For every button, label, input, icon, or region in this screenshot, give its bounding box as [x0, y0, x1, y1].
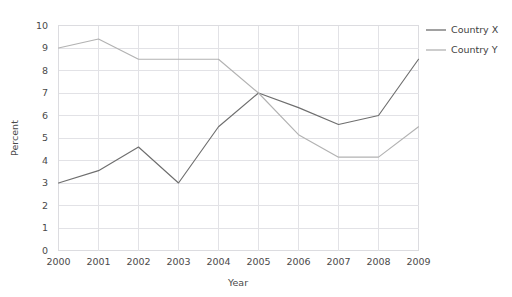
x-axis-tick-label: 2000 — [46, 256, 70, 267]
y-axis-tick-label: 3 — [42, 177, 48, 188]
y-axis-tick-label: 2 — [42, 200, 48, 211]
legend-item-label[interactable]: Country Y — [451, 44, 498, 55]
x-axis-tick-labels: 2000200120022003200420052006200720082009 — [46, 256, 430, 267]
legend-item-label[interactable]: Country X — [451, 24, 499, 35]
y-axis-tick-label: 8 — [42, 65, 48, 76]
legend: Country XCountry Y — [426, 24, 499, 55]
y-axis-tick-label: 5 — [42, 132, 48, 143]
x-axis-tick-label: 2001 — [86, 256, 110, 267]
x-axis-tick-label: 2002 — [126, 256, 150, 267]
y-axis-tick-label: 9 — [42, 42, 48, 53]
x-axis-tick-label: 2005 — [246, 256, 270, 267]
y-axis-tick-label: 7 — [42, 87, 48, 98]
x-axis-title: Year — [227, 277, 248, 288]
y-axis-tick-label: 1 — [42, 222, 48, 233]
y-axis-tick-label: 0 — [42, 245, 48, 256]
x-axis-tick-label: 2007 — [326, 256, 350, 267]
chart-canvas: 012345678910 200020012002200320042005200… — [0, 0, 512, 297]
line-chart: 012345678910 200020012002200320042005200… — [0, 0, 512, 297]
y-axis-title: Percent — [9, 120, 20, 156]
x-axis-tick-label: 2008 — [366, 256, 390, 267]
x-axis-tick-label: 2006 — [286, 256, 310, 267]
y-axis-tick-labels: 012345678910 — [36, 20, 48, 256]
x-axis-tick-label: 2004 — [206, 256, 230, 267]
y-axis-tick-label: 10 — [36, 20, 48, 31]
y-axis-tick-label: 6 — [42, 110, 48, 121]
x-axis-tick-label: 2009 — [406, 256, 430, 267]
y-axis-tick-label: 4 — [42, 155, 48, 166]
x-axis-tick-label: 2003 — [166, 256, 190, 267]
